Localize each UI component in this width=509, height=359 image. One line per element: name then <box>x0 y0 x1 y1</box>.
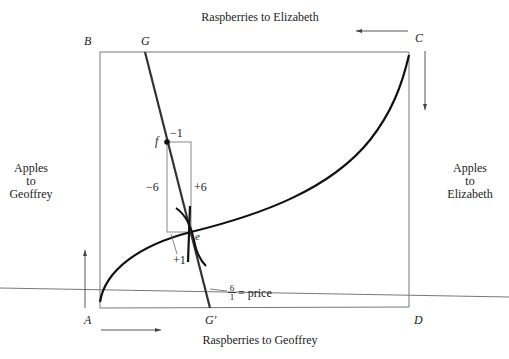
price-denominator: 1 <box>228 292 236 301</box>
point-f-label: f <box>155 135 158 148</box>
arrow-up-icon <box>83 250 87 308</box>
price-fraction: 6 1 <box>228 284 236 301</box>
plus-one-label: +1 <box>173 254 186 267</box>
plus-six-label: +6 <box>194 181 207 194</box>
minus-six-label: −6 <box>146 181 159 194</box>
line-g-prime-label: G′ <box>205 314 216 327</box>
corner-a-label: A <box>84 314 91 327</box>
bottom-axis-label: Raspberries to Geoffrey <box>185 334 335 347</box>
right-axis-label: Apples to Elizabeth <box>440 162 500 201</box>
arrow-down-icon <box>423 51 427 110</box>
arrow-top-left-icon <box>356 29 408 33</box>
corner-c-label: C <box>415 32 423 45</box>
edgeworth-box-diagram <box>0 0 509 359</box>
line-g-label: G <box>141 35 150 48</box>
contract-curve <box>100 55 409 302</box>
point-e-label: e <box>195 230 200 243</box>
point-f <box>164 139 170 145</box>
price-text: = price <box>238 287 272 300</box>
corner-d-label: D <box>414 314 423 327</box>
arrow-right-icon <box>101 328 161 332</box>
price-leader <box>210 289 227 291</box>
corner-b-label: B <box>84 35 91 48</box>
top-axis-label: Raspberries to Elizabeth <box>185 11 335 24</box>
left-axis-label-line3: Geoffrey <box>3 188 59 201</box>
right-axis-label-line3: Elizabeth <box>440 188 500 201</box>
price-numerator: 6 <box>228 284 236 292</box>
indifference-curve-2 <box>188 206 190 262</box>
minus-one-label: −1 <box>170 127 183 140</box>
left-axis-label: Apples to Geoffrey <box>3 162 59 201</box>
